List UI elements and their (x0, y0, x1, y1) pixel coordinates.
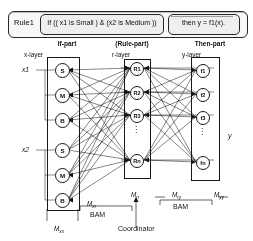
r-node-r3[interactable]: R3 (130, 109, 144, 123)
y-node-fn[interactable]: fn (196, 156, 210, 170)
r-node-rn[interactable]: Rn (130, 154, 144, 168)
x-node-x2-big[interactable]: B (55, 193, 70, 208)
y-node-f1[interactable]: f1 (196, 64, 210, 78)
bracket-annotations (0, 0, 253, 241)
x-node-x1-medium[interactable]: M (55, 88, 70, 103)
r-node-r1[interactable]: R1 (130, 62, 144, 76)
x-node-x1-big[interactable]: B (55, 113, 70, 128)
y-node-f2[interactable]: f2 (196, 88, 210, 102)
x-node-x2-small[interactable]: S (55, 143, 70, 158)
fuzzy-bam-network-diagram: Rule1 If (( x1 is Small ) & (x2 is Mediu… (0, 0, 253, 241)
y-node-f3[interactable]: f3 (196, 111, 210, 125)
y-layer-ellipsis: ⋮ (196, 130, 208, 134)
r-node-r2[interactable]: R2 (130, 86, 144, 100)
r-layer-ellipsis: ⋮ (130, 128, 142, 132)
x-node-x2-medium[interactable]: M (55, 168, 70, 183)
x-node-x1-small[interactable]: S (55, 63, 70, 78)
